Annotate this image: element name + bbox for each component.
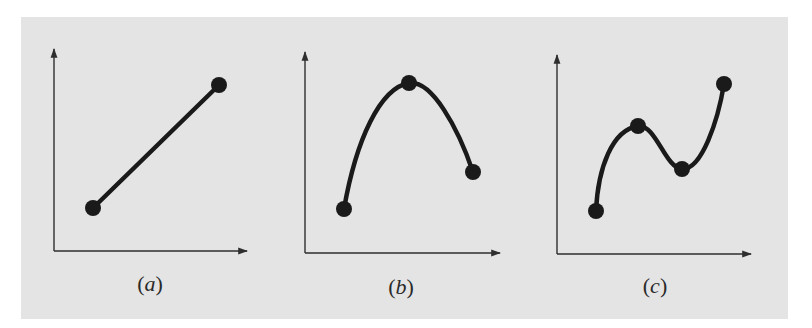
data-point [85,200,101,216]
panel-label-b: (b) [388,274,414,299]
polynomial-interpolation-figure: (a) (b) (c) [0,0,812,328]
data-point [401,75,417,91]
panel-label-c: (c) [643,273,667,298]
data-point [588,203,604,219]
figure-canvas: (a) (b) (c) [0,0,812,328]
data-point [336,201,352,217]
data-point [716,76,732,92]
data-point [674,161,690,177]
data-point [465,164,481,180]
panel-label-a: (a) [137,271,163,296]
data-point [630,118,646,134]
data-point [211,77,227,93]
